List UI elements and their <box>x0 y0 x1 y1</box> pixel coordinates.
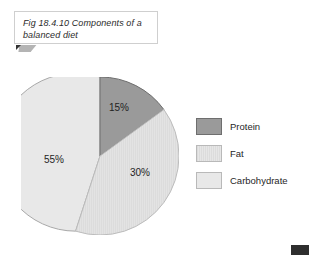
pie-label-carbohydrate: 55% <box>44 154 64 165</box>
legend-item-fat: Fat <box>196 144 308 162</box>
figure-caption-text: Fig 18.4.10 Components of a balanced die… <box>23 17 151 41</box>
chart-legend: Protein Fat Carbohydrate <box>196 117 308 198</box>
cursor-arrow-icon <box>16 45 21 50</box>
legend-item-carbohydrate: Carbohydrate <box>196 171 308 189</box>
legend-swatch-protein <box>196 118 222 135</box>
legend-label-protein: Protein <box>230 121 260 132</box>
figure-caption-box: Fig 18.4.10 Components of a balanced die… <box>14 11 158 44</box>
pie-label-protein: 15% <box>109 102 129 113</box>
legend-item-protein: Protein <box>196 117 308 135</box>
legend-swatch-carbohydrate <box>196 172 222 189</box>
figure-page: Fig 18.4.10 Components of a balanced die… <box>0 0 311 260</box>
legend-label-fat: Fat <box>230 148 244 159</box>
pie-label-fat: 30% <box>130 167 150 178</box>
legend-label-carbohydrate: Carbohydrate <box>230 175 288 186</box>
corner-block-icon <box>291 245 309 255</box>
legend-swatch-fat <box>196 145 222 162</box>
callout-tail-icon <box>19 45 37 52</box>
